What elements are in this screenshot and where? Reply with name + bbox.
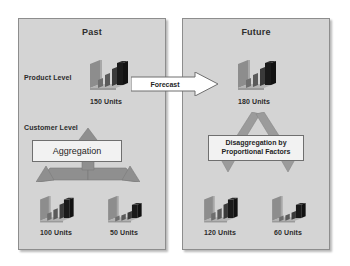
panel-past-title: Past [19, 27, 165, 37]
units-future-customer-a: 120 Units [204, 229, 236, 236]
units-future-customer-b: 60 Units [274, 229, 302, 236]
units-future-product-total: 180 Units [238, 98, 270, 105]
forecast-arrow-label: Forecast [137, 72, 193, 96]
callout-disaggregation-line1: Disaggregation by [225, 139, 286, 146]
bar-chart-3d-icon [268, 196, 308, 226]
callout-disaggregation: Disaggregation by Proportional Factors [208, 135, 304, 161]
bar-chart-3d-icon [234, 60, 278, 94]
bar-chart-3d-icon [36, 196, 76, 226]
units-past-customer-a: 100 Units [40, 229, 72, 236]
diagram-canvas: Past Product Level Customer Level Ag [0, 0, 350, 266]
forecast-arrow: Forecast [131, 72, 219, 96]
label-product-level: Product Level [24, 74, 72, 81]
units-past-product-total: 150 Units [90, 98, 122, 105]
panel-future-title: Future [183, 27, 329, 37]
bar-chart-3d-icon [104, 196, 144, 226]
bar-chart-3d-icon [200, 196, 240, 226]
callout-aggregation-text: Aggregation [53, 146, 102, 156]
callout-disaggregation-line2: Proportional Factors [222, 148, 291, 155]
units-past-customer-b: 50 Units [110, 229, 138, 236]
bar-chart-3d-icon [86, 60, 130, 94]
callout-disaggregation-text: Disaggregation by Proportional Factors [222, 139, 291, 157]
callout-aggregation: Aggregation [32, 140, 122, 162]
